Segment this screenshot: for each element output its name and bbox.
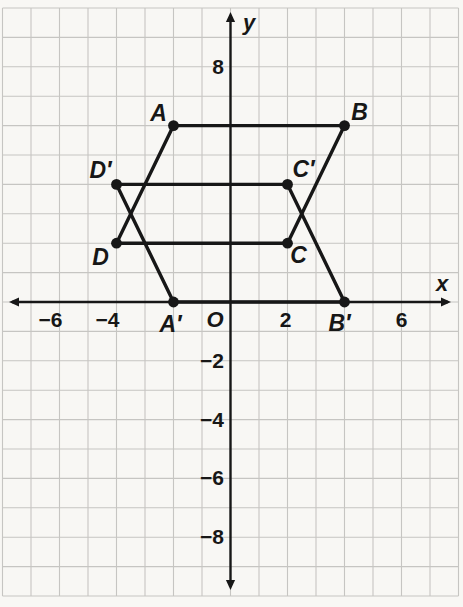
point-dot-B xyxy=(339,120,350,131)
point-label-C: C xyxy=(290,242,307,268)
y-axis-letter-label: y xyxy=(242,10,257,35)
point-label-B′: B′ xyxy=(328,310,352,336)
point-label-A: A xyxy=(149,100,167,126)
x-axis-letter-label: x xyxy=(435,271,449,296)
point-dot-A′ xyxy=(168,297,179,308)
point-dot-C′ xyxy=(282,179,293,190)
y-tick-label: −6 xyxy=(200,466,224,489)
graph-paper-figure: xyO−6−4268−2−4−6−8ABCDA′B′C′D′ xyxy=(0,0,463,607)
y-tick-label: −4 xyxy=(200,408,224,431)
point-label-B: B xyxy=(351,99,368,125)
point-label-D′: D′ xyxy=(89,157,113,183)
y-tick-label: 8 xyxy=(212,55,224,78)
point-dot-A xyxy=(168,120,179,131)
x-tick-label: −4 xyxy=(96,308,120,331)
point-label-D: D xyxy=(92,244,109,270)
point-dot-D′ xyxy=(111,179,122,190)
point-label-C′: C′ xyxy=(292,156,316,182)
point-dot-B′ xyxy=(339,297,350,308)
point-dot-D xyxy=(111,238,122,249)
x-tick-label: −6 xyxy=(39,308,63,331)
coordinate-plane-svg: xyO−6−4268−2−4−6−8ABCDA′B′C′D′ xyxy=(0,0,463,607)
origin-label: O xyxy=(206,307,223,332)
x-tick-label: 6 xyxy=(396,308,408,331)
y-tick-label: −8 xyxy=(200,525,224,548)
y-tick-label: −2 xyxy=(200,349,224,372)
point-label-A′: A′ xyxy=(158,311,183,337)
x-tick-label: 2 xyxy=(280,308,292,331)
